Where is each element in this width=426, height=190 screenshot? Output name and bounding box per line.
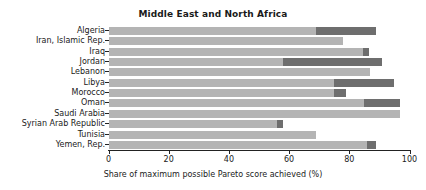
y-axis-category-label: Iran, Islamic Rep. [36,36,105,46]
y-axis-category-label: Morocco [72,88,106,98]
bar-segment-base [109,58,284,66]
bar-segment-increment [363,48,369,56]
chart-row: Saudi Arabia [0,109,426,119]
x-tick-mark [349,150,350,154]
chart-row: Morocco [0,88,426,98]
y-axis-category-label: Libya [84,78,105,88]
bar-segment-base [109,79,335,87]
y-axis-category-label: Tunisia [78,130,105,140]
chart-row: Tunisia [0,130,426,140]
bar-segment-base [109,27,317,35]
stacked-bar [109,131,317,139]
chart-row: Jordan [0,57,426,67]
stacked-bar [109,27,377,35]
x-axis-label: Share of maximum possible Pareto score a… [0,170,426,179]
x-tick-label: 80 [334,155,364,164]
bar-segment-increment [364,99,400,107]
x-tick-label: 100 [395,155,425,164]
bar-segment-increment [367,141,376,149]
bar-segment-increment [316,27,376,35]
bar-segment-increment [277,120,283,128]
chart-row: Yemen, Rep. [0,140,426,150]
bar-segment-base [109,68,371,76]
y-axis-category-label: Syrian Arab Republic [22,119,105,129]
stacked-bar [109,110,401,118]
bar-segment-base [109,89,335,97]
x-tick-mark [410,150,411,154]
stacked-bar [109,141,377,149]
x-tick-mark [109,150,110,154]
chart-row: Iran, Islamic Rep. [0,36,426,46]
x-tick-mark [229,150,230,154]
y-axis-category-label: Iraq [89,47,105,57]
x-tick-mark [169,150,170,154]
y-axis-category-label: Algeria [77,26,105,36]
stacked-bar [109,37,344,45]
bar-segment-base [109,37,344,45]
x-tick-mark [289,150,290,154]
chart-row: Lebanon [0,67,426,77]
stacked-bar [109,99,401,107]
x-tick-label: 60 [274,155,304,164]
stacked-bar [109,48,369,56]
stacked-bar [109,120,284,128]
chart-row: Libya [0,78,426,88]
bar-segment-base [109,110,401,118]
x-tick-label: 0 [94,155,124,164]
bar-segment-base [109,131,317,139]
y-axis-category-label: Saudi Arabia [54,109,105,119]
bar-segment-increment [334,79,394,87]
chart-row: Oman [0,98,426,108]
chart-row: Syrian Arab Republic [0,119,426,129]
bar-segment-base [109,141,368,149]
x-tick-label: 20 [154,155,184,164]
x-axis-line [108,150,410,151]
bar-segment-base [109,99,365,107]
bar-segment-base [109,48,363,56]
y-axis-category-label: Lebanon [71,67,105,77]
x-tick-label: 40 [214,155,244,164]
y-axis-category-label: Yemen, Rep. [56,140,105,150]
chart-row: Iraq [0,47,426,57]
y-axis-category-label: Oman [81,98,105,108]
chart-container: Middle East and North Africa AlgeriaIran… [0,0,426,190]
stacked-bar [109,79,395,87]
stacked-bar [109,58,383,66]
stacked-bar [109,68,371,76]
bar-segment-base [109,120,278,128]
chart-title: Middle East and North Africa [0,9,426,19]
y-axis-category-label: Jordan [80,57,105,67]
bar-segment-increment [334,89,346,97]
bar-segment-increment [283,58,382,66]
stacked-bar [109,89,347,97]
chart-row: Algeria [0,26,426,36]
